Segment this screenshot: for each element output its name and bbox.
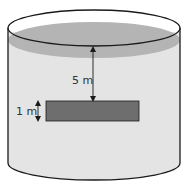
water-surface: [8, 22, 180, 58]
submerged-plate: [46, 101, 139, 121]
plate-height-label: 1 m: [16, 105, 37, 118]
depth-label: 5 m: [72, 74, 93, 87]
tank-diagram: 5 m 1 m: [0, 0, 188, 192]
